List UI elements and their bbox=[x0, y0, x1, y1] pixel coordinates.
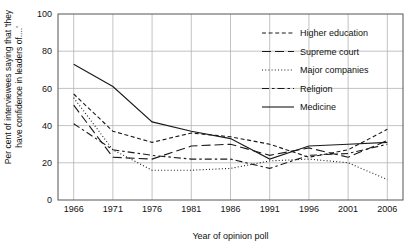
x-tick-label: 1996 bbox=[299, 204, 319, 214]
y-tick-label: 100 bbox=[37, 9, 52, 19]
x-tick-label: 1971 bbox=[103, 204, 123, 214]
plot-area: 1966197119761981198619911996200120060204… bbox=[0, 0, 410, 250]
legend-label: Major companies bbox=[300, 65, 369, 75]
x-tick-label: 1966 bbox=[64, 204, 84, 214]
x-tick-label: 1986 bbox=[220, 204, 240, 214]
x-tick-label: 2006 bbox=[377, 204, 397, 214]
y-tick-label: 40 bbox=[42, 121, 52, 131]
legend-label: Medicine bbox=[300, 102, 336, 112]
x-tick-label: 1981 bbox=[181, 204, 201, 214]
y-tick-label: 60 bbox=[42, 84, 52, 94]
legend-label: Higher education bbox=[300, 28, 368, 38]
legend-label: Supreme court bbox=[300, 47, 360, 57]
x-tick-label: 1976 bbox=[142, 204, 162, 214]
y-tick-label: 0 bbox=[47, 195, 52, 205]
x-tick-label: 2001 bbox=[338, 204, 358, 214]
x-tick-label: 1991 bbox=[260, 204, 280, 214]
opinion-poll-line-chart: Per cent of interviewees saying that 'th… bbox=[0, 0, 410, 250]
legend-label: Religion bbox=[300, 84, 333, 94]
y-tick-label: 20 bbox=[42, 158, 52, 168]
y-tick-label: 80 bbox=[42, 46, 52, 56]
